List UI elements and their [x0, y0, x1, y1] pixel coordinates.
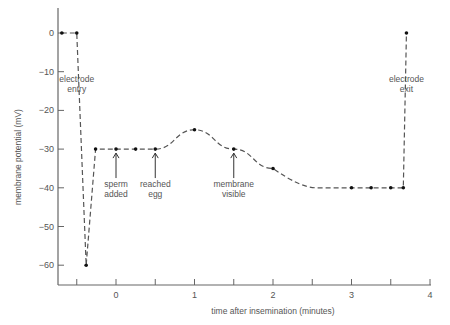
data-point: [350, 186, 354, 190]
x-axis-title: time after insemination (minutes): [211, 306, 334, 316]
annotation-label: added: [104, 189, 128, 199]
y-tick-label: 0: [49, 28, 54, 38]
x-tick-label: 4: [427, 290, 432, 300]
membrane-potential-chart: 0−10−20−30−40−50−6001234 electrodeentrys…: [0, 0, 450, 325]
data-point: [193, 128, 197, 132]
annotation-label: electrode: [389, 74, 424, 84]
data-point: [134, 147, 138, 151]
annotation-label: membrane: [213, 179, 254, 189]
data-series: [60, 31, 408, 267]
annotation-label: reached: [140, 179, 171, 189]
x-tick-label: 3: [349, 290, 354, 300]
ticks: 0−10−20−30−40−50−6001234: [39, 28, 433, 300]
data-point: [75, 31, 79, 35]
y-axis-title: membrane potential (mV): [13, 109, 23, 205]
data-point: [402, 186, 406, 190]
data-point: [114, 147, 118, 151]
annotation-label: electrode: [59, 74, 94, 84]
annotation-label: sperm: [104, 179, 128, 189]
annotations: electrodeentryspermaddedreachedeggmembra…: [59, 74, 424, 199]
data-point: [153, 147, 157, 151]
annotation-label: visible: [222, 189, 246, 199]
y-tick-label: −60: [39, 260, 54, 270]
y-tick-label: −10: [39, 67, 54, 77]
y-tick-label: −20: [39, 105, 54, 115]
annotation-label: exit: [400, 84, 414, 94]
data-point: [60, 31, 64, 35]
data-point: [84, 263, 88, 267]
y-tick-label: −40: [39, 183, 54, 193]
data-point: [94, 147, 98, 151]
x-tick-label: 0: [113, 290, 118, 300]
data-point: [389, 186, 393, 190]
axes: [58, 8, 431, 285]
annotation-label: egg: [148, 189, 162, 199]
y-tick-label: −30: [39, 144, 54, 154]
x-tick-label: 2: [270, 290, 275, 300]
y-tick-label: −50: [39, 222, 54, 232]
x-tick-label: 1: [192, 290, 197, 300]
data-point: [405, 31, 409, 35]
data-point: [271, 167, 275, 171]
data-point: [369, 186, 373, 190]
data-point: [232, 147, 236, 151]
annotation-label: entry: [67, 84, 87, 94]
